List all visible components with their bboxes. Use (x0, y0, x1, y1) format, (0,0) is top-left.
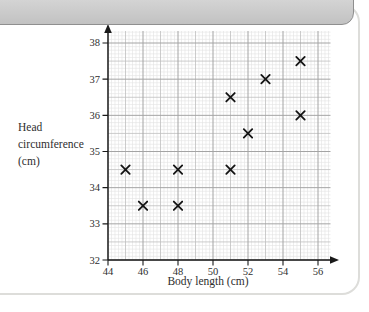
y-tick-label: 36 (90, 110, 101, 121)
x-tick-label: 56 (313, 266, 324, 277)
y-tick-label: 32 (90, 255, 101, 266)
x-tick-label: 52 (243, 266, 254, 277)
x-tick-label: 44 (103, 266, 114, 277)
y-tick-label: 34 (90, 182, 101, 193)
x-tick-label: 48 (173, 266, 184, 277)
window-header-bar (0, 0, 354, 25)
x-tick-label: 46 (138, 266, 149, 277)
y-tick-label: 38 (90, 37, 101, 48)
x-tick-label: 54 (278, 266, 289, 277)
y-axis-arrow-icon (104, 24, 112, 33)
y-tick-label: 35 (90, 146, 101, 157)
y-tick-label: 37 (90, 74, 101, 85)
x-axis-arrow-icon (330, 256, 339, 264)
y-tick-label: 33 (90, 218, 101, 229)
x-tick-label: 50 (208, 266, 219, 277)
scatter-plot: 4446485052545632333435363738 (0, 0, 369, 312)
axis-ticks (103, 43, 319, 266)
